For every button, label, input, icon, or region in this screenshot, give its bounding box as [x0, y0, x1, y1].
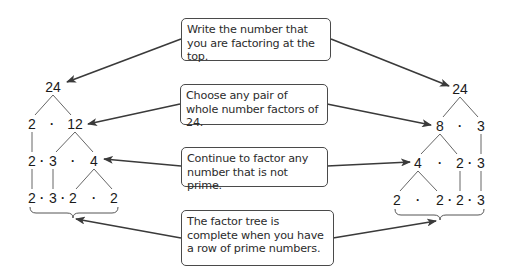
callout-tree-complete: The factor tree is complete when you hav… — [181, 210, 334, 266]
callout-text: Continue to factor any number that is no… — [187, 152, 308, 192]
callout-text: Choose any pair of whole number factors … — [186, 89, 318, 129]
left-row2-item: 12 — [67, 117, 83, 131]
right-row3-item: 4 — [414, 156, 422, 170]
right-row4-item: 2 — [436, 193, 444, 207]
left-row3-item: 2 — [28, 154, 36, 168]
right-row2-item: 3 — [477, 119, 485, 133]
right-brace — [395, 209, 484, 220]
left-row4-item: 2 — [69, 191, 77, 205]
callout-write-top: Write the number that you are factoring … — [181, 18, 331, 61]
right-row4-item: 2 — [456, 193, 464, 207]
callout-choose-pair: Choose any pair of whole number factors … — [180, 84, 328, 125]
right-row4-dot: · — [416, 194, 420, 206]
right-row4-dot: · — [448, 194, 452, 206]
right-row3-item: 2 — [456, 156, 464, 170]
factor-tree-diagram: Write the number that you are factoring … — [0, 0, 513, 280]
left-root: 24 — [45, 80, 61, 94]
right-row4-dot: · — [468, 194, 472, 206]
left-row3-dot: · — [71, 155, 75, 167]
left-row2-item: 2 — [28, 117, 36, 131]
callout-text: Write the number that you are factoring … — [187, 23, 315, 63]
right-row4-item: 2 — [393, 193, 401, 207]
left-brace — [30, 207, 118, 218]
left-row4-item: 2 — [28, 191, 36, 205]
left-row4-dot: · — [40, 192, 44, 204]
right-row2-item: 8 — [436, 119, 444, 133]
right-row3-dot: · — [468, 157, 472, 169]
left-row4-dot: · — [92, 192, 96, 204]
right-row4-item: 3 — [477, 193, 485, 207]
left-row3-dot: · — [40, 155, 44, 167]
callout-text: The factor tree is complete when you hav… — [187, 215, 324, 255]
left-row3-item: 3 — [49, 154, 57, 168]
callout-arrows — [67, 39, 449, 238]
right-root: 24 — [452, 82, 468, 96]
left-tree-branches — [32, 95, 112, 189]
left-row4-item: 3 — [49, 191, 57, 205]
right-row2-dot: · — [458, 120, 462, 132]
right-row3-item: 3 — [477, 156, 485, 170]
left-row4-dot: · — [61, 192, 65, 204]
right-row3-dot: · — [438, 157, 442, 169]
right-tree-branches — [400, 97, 481, 191]
left-row2-dot: · — [50, 118, 54, 130]
left-row3-item: 4 — [90, 154, 98, 168]
callout-continue-factor: Continue to factor any number that is no… — [181, 147, 328, 187]
left-row4-item: 2 — [110, 191, 118, 205]
